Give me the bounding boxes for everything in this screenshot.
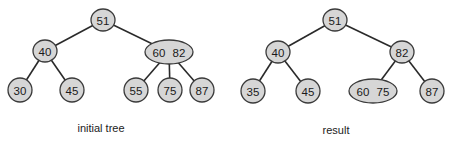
tree-node: 51 — [323, 9, 347, 31]
node-key: 82 — [173, 47, 186, 59]
node-key: 82 — [396, 47, 409, 59]
node-key: 40 — [272, 47, 285, 59]
node-key: 45 — [302, 86, 315, 98]
tree-node: 87 — [420, 79, 444, 103]
node-key: 40 — [39, 46, 52, 58]
tree-node: 35 — [241, 79, 265, 103]
tree-node-multi-key: 6075 — [349, 79, 397, 103]
node-key: 51 — [329, 15, 342, 27]
tree-node: 87 — [190, 78, 214, 102]
tree-node: 40 — [33, 40, 57, 62]
tree-node: 40 — [266, 41, 290, 63]
node-key: 60 — [153, 47, 166, 59]
node-key: 87 — [426, 86, 439, 98]
tree-node: 51 — [91, 9, 115, 31]
tree-node: 45 — [60, 78, 84, 102]
tree-node: 75 — [158, 78, 182, 102]
node-key: 45 — [66, 85, 79, 97]
initial-tree: 514060823045557587 — [8, 9, 214, 102]
result-tree: 5140823545607587 — [241, 9, 444, 103]
tree-node: 30 — [8, 78, 32, 102]
node-key: 60 — [357, 86, 370, 98]
result-tree-caption: result — [323, 124, 350, 136]
node-key: 87 — [196, 85, 209, 97]
tree-node: 82 — [390, 41, 414, 63]
tree-node: 45 — [296, 79, 320, 103]
initial-tree-caption: initial tree — [77, 122, 124, 134]
node-key: 51 — [97, 15, 110, 27]
node-key: 55 — [130, 85, 143, 97]
tree-node: 55 — [124, 78, 148, 102]
node-key: 75 — [164, 85, 177, 97]
tree-diagram-canvas: 5140608230455575875140823545607587 — [0, 0, 453, 143]
tree-node-multi-key: 6082 — [145, 40, 193, 64]
node-key: 35 — [247, 86, 260, 98]
node-key: 30 — [14, 85, 27, 97]
node-key: 75 — [377, 86, 390, 98]
